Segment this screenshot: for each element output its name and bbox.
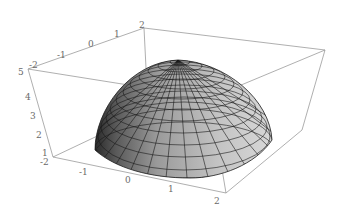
- tick-label: 2: [36, 130, 42, 140]
- tick-label: 0: [125, 175, 131, 185]
- tick-label: 0: [88, 39, 94, 49]
- tick-label: 1: [114, 29, 120, 39]
- tick-label: -1: [79, 167, 88, 177]
- tick-label: 1: [168, 184, 174, 194]
- tick-label: 2: [214, 196, 220, 206]
- tick-label: 5: [18, 67, 24, 77]
- paraboloid-surface: [94, 59, 274, 179]
- tick-label: 2: [139, 20, 145, 30]
- tick-label: 4: [25, 92, 31, 102]
- z-axis-ticks: 5 4 3 2 1: [18, 67, 48, 158]
- tick-label: -1: [57, 50, 66, 60]
- surface-plot: -2 -1 0 1 2 5 4 3 2 1 -2 -1 0 1 2: [0, 0, 339, 212]
- tick-label: -2: [29, 60, 38, 70]
- tick-label: 3: [30, 111, 36, 121]
- tick-label: -2: [40, 157, 49, 167]
